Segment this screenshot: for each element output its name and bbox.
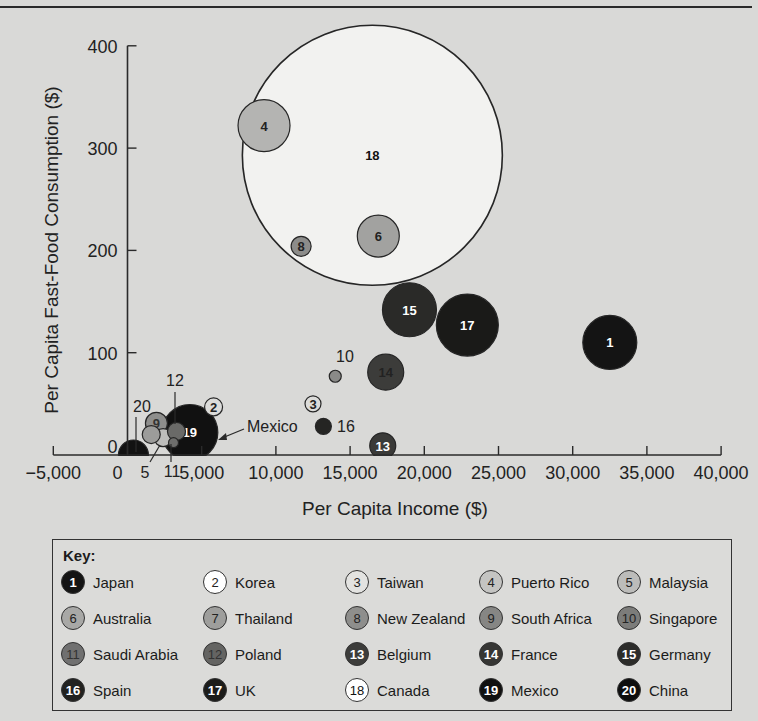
annotation-16: 16: [337, 418, 355, 435]
annotation-label: 16: [337, 418, 355, 435]
bubble-layer: 1817191154614139823: [118, 25, 636, 470]
legend-swatch-icon: 1: [61, 570, 85, 594]
legend-item-singapore: 10Singapore: [617, 604, 717, 632]
bubble-taiwan: 3: [305, 396, 321, 412]
annotation-label: 10: [336, 348, 354, 365]
legend-key: Key: 1Japan2Korea3Taiwan4Puerto Rico5Mal…: [52, 539, 732, 711]
x-tick-label: 0: [112, 463, 122, 483]
legend-label: Canada: [377, 682, 430, 699]
legend-item-france: 14France: [479, 640, 558, 668]
y-tick-label: 400: [87, 37, 117, 57]
bubble-circle: [315, 418, 331, 434]
legend-swatch-icon: 15: [617, 642, 641, 666]
legend-label: Poland: [235, 646, 282, 663]
bubble-saudi-arabia: [169, 438, 179, 448]
x-axis-title: Per Capita Income ($): [302, 498, 488, 519]
legend-swatch-icon: 18: [345, 678, 369, 702]
arrow-head: [218, 433, 227, 440]
bubble-number: 13: [376, 439, 390, 454]
legend-label: Puerto Rico: [511, 574, 589, 591]
legend-label: UK: [235, 682, 256, 699]
legend-label: China: [649, 682, 688, 699]
legend-swatch-icon: 9: [479, 606, 503, 630]
annotation-19: Mexico: [218, 418, 298, 440]
x-tick-label: 35,000: [619, 463, 674, 483]
y-tick-label: 300: [87, 139, 117, 159]
legend-item-australia: 6Australia: [61, 604, 151, 632]
x-tick-label: 25,000: [471, 463, 526, 483]
legend-title: Key:: [63, 547, 96, 564]
bubble-number: 2: [210, 400, 217, 415]
legend-item-saudi-arabia: 11Saudi Arabia: [61, 640, 178, 668]
legend-item-malaysia: 5Malaysia: [617, 568, 708, 596]
legend-item-puerto-rico: 4Puerto Rico: [479, 568, 589, 596]
legend-swatch-icon: 7: [203, 606, 227, 630]
annotation-label: 20: [133, 398, 151, 415]
legend-swatch-icon: 19: [479, 678, 503, 702]
bubble-number: 18: [365, 148, 379, 163]
y-tick-label: 100: [87, 344, 117, 364]
legend-label: Germany: [649, 646, 711, 663]
bubble-france: 14: [368, 354, 404, 390]
y-tick-label: 200: [87, 241, 117, 261]
bubble-poland: [167, 422, 185, 440]
bubble-circle: [169, 438, 179, 448]
bubble-number: 1: [606, 335, 613, 350]
legend-swatch-icon: 11: [61, 642, 85, 666]
annotation-label: 5: [141, 464, 150, 481]
bubble-number: 8: [298, 239, 305, 254]
legend-label: South Africa: [511, 610, 592, 627]
legend-item-belgium: 13Belgium: [345, 640, 431, 668]
legend-label: Australia: [93, 610, 151, 627]
legend-item-uk: 17UK: [203, 676, 256, 704]
x-tick-label: −5,000: [26, 463, 82, 483]
legend-label: Malaysia: [649, 574, 708, 591]
annotation-label: 12: [166, 372, 184, 389]
bubble-number: 14: [378, 365, 393, 380]
x-tick-label: 10,000: [248, 463, 303, 483]
x-tick-label: 20,000: [397, 463, 452, 483]
legend-item-japan: 1Japan: [61, 568, 134, 596]
legend-swatch-icon: 4: [479, 570, 503, 594]
legend-swatch-icon: 20: [617, 678, 641, 702]
x-tick-label: 5,000: [179, 463, 224, 483]
bubble-number: 17: [460, 318, 474, 333]
legend-item-taiwan: 3Taiwan: [345, 568, 424, 596]
legend-item-poland: 12Poland: [203, 640, 282, 668]
annotation-label: Mexico: [247, 418, 298, 435]
legend-label: Korea: [235, 574, 275, 591]
legend-item-spain: 16Spain: [61, 676, 131, 704]
legend-swatch-icon: 14: [479, 642, 503, 666]
annotation-10: 10: [336, 348, 354, 365]
legend-swatch-icon: 12: [203, 642, 227, 666]
legend-label: Belgium: [377, 646, 431, 663]
bubble-number: 6: [375, 229, 382, 244]
legend-label: New Zealand: [377, 610, 465, 627]
legend-item-germany: 15Germany: [617, 640, 711, 668]
legend-swatch-icon: 10: [617, 606, 641, 630]
y-tick-label: 0: [107, 437, 117, 457]
legend-item-south-africa: 9South Africa: [479, 604, 592, 632]
legend-item-new-zealand: 8New Zealand: [345, 604, 465, 632]
bubble-thailand: [142, 426, 160, 444]
legend-swatch-icon: 13: [345, 642, 369, 666]
legend-swatch-icon: 6: [61, 606, 85, 630]
legend-label: Mexico: [511, 682, 559, 699]
bubble-circle: [329, 370, 341, 382]
legend-label: Saudi Arabia: [93, 646, 178, 663]
x-tick-label: 15,000: [323, 463, 378, 483]
legend-label: France: [511, 646, 558, 663]
bubble-circle: [167, 422, 185, 440]
bubble-number: 3: [309, 397, 316, 412]
legend-item-korea: 2Korea: [203, 568, 275, 596]
bubble-germany: 15: [382, 283, 436, 337]
x-tick-label: 30,000: [545, 463, 600, 483]
x-tick-label: 40,000: [694, 463, 749, 483]
y-axis-title: Per Capita Fast-Food Consumption ($): [41, 86, 62, 413]
bubble-circle: [142, 426, 160, 444]
bubble-japan: 1: [583, 315, 637, 369]
bubble-korea: 2: [205, 398, 223, 416]
bubble-uk: 17: [436, 294, 498, 356]
bubble-number: 4: [260, 119, 268, 134]
legend-label: Singapore: [649, 610, 717, 627]
